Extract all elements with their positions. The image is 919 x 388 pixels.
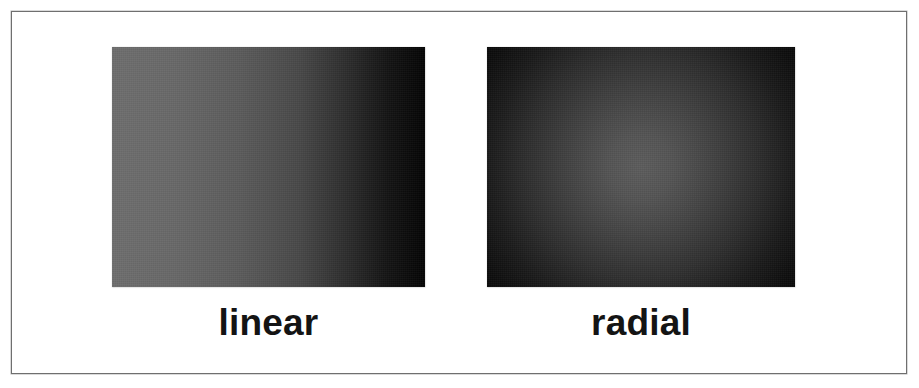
halftone-grain-overlay (487, 47, 795, 287)
panel-linear (112, 47, 425, 287)
halftone-grain-overlay (112, 47, 425, 287)
panel-linear-caption: linear (112, 300, 425, 346)
panel-radial-caption: radial (487, 300, 795, 346)
figure-root: linear radial (0, 0, 919, 388)
radial-gradient-swatch (487, 47, 795, 287)
linear-gradient-swatch (112, 47, 425, 287)
panel-radial (487, 47, 795, 287)
